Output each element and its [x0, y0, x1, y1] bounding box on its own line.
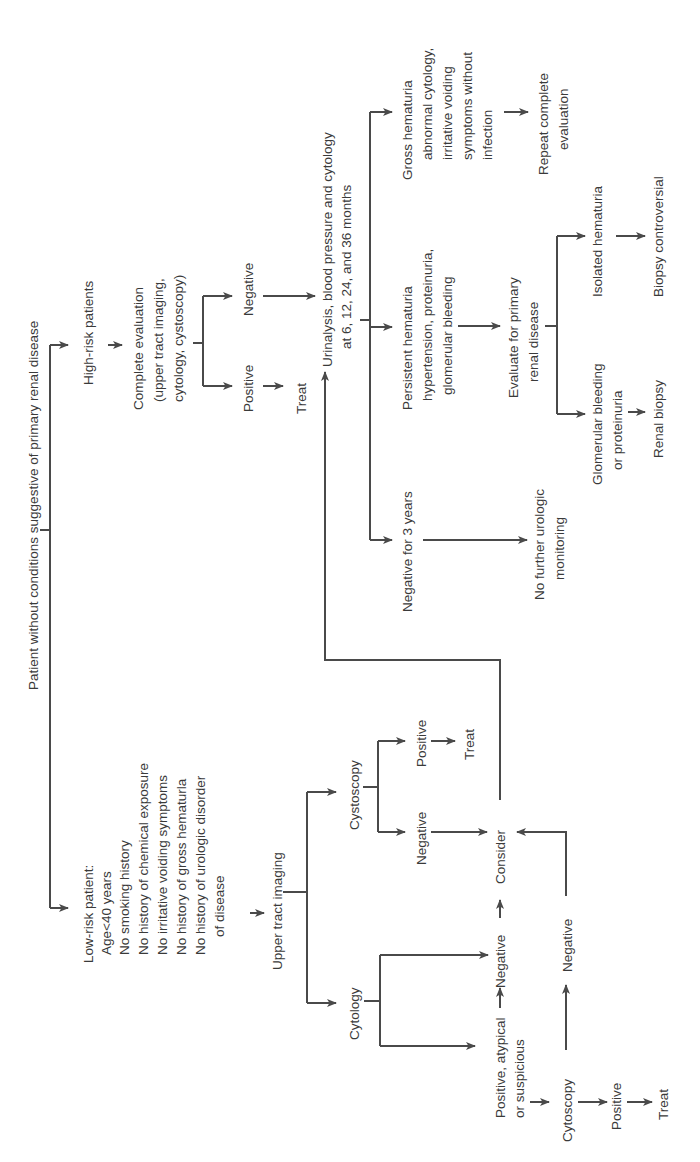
complete-eval-line1: Complete evaluation	[131, 287, 146, 410]
low-risk-line8: of disease	[212, 875, 227, 937]
evaluate-line2: renal disease	[526, 302, 541, 382]
complete-eval-line3: cytology, cystoscopy)	[171, 275, 186, 402]
hr-treat: Treat	[294, 383, 309, 414]
urinalysis-line2: at 6, 12, 24, and 36 months	[339, 184, 354, 349]
high-risk-label: High-risk patients	[81, 280, 96, 385]
cysto-negative: Negative	[414, 812, 429, 865]
persistent-line3: glomerular bleeding	[440, 276, 455, 395]
flowchart-svg: Patient without conditions suggestive of…	[0, 0, 700, 1162]
hr-negative: Negative	[241, 263, 256, 316]
cytoscopy2: Cytoscopy	[560, 1079, 575, 1142]
no-further-line1: No further urologic	[532, 489, 547, 600]
low-risk-line2: Age<40 years	[99, 871, 114, 955]
glomerular-line1: Glomerular bleeding	[590, 363, 605, 485]
gross-line1: Gross hematuria	[400, 80, 415, 180]
cystoscopy: Cystoscopy	[347, 760, 362, 830]
cytoscopy2-treat: Treat	[656, 1089, 671, 1120]
cysto-positive: Positive	[414, 720, 429, 767]
flowchart-figure: Patient without conditions suggestive of…	[0, 0, 700, 1162]
hr-positive: Positive	[241, 365, 256, 412]
low-risk-line7: No history of urologic disorder	[193, 775, 208, 955]
gross-line3: irritative voiding	[440, 66, 455, 160]
renal-biopsy: Renal biopsy	[651, 380, 666, 458]
complete-eval-line2: (upper tract imaging,	[151, 278, 166, 402]
low-risk-line4: No history of chemical exposure	[136, 763, 151, 955]
evaluate-line1: Evaluate for primary	[506, 277, 521, 398]
cytology-positive-line2: or suspicious	[512, 1039, 527, 1118]
gross-line4: symptoms without	[460, 52, 475, 160]
arrow-to-consider-from-cytoscopy	[517, 832, 566, 896]
low-risk-line5: No irritative voiding symptoms	[155, 775, 170, 955]
repeat-line1: Repeat complete	[536, 73, 551, 175]
isolated-hematuria: Isolated hematuria	[590, 185, 605, 297]
gross-line2: abnormal cytology,	[420, 48, 435, 160]
cytoscopy2-positive: Positive	[609, 1083, 624, 1130]
gross-line5: infection	[480, 110, 495, 160]
cytology: Cytology	[347, 987, 362, 1040]
root-label: Patient without conditions suggestive of…	[26, 321, 41, 690]
negative-3y: Negative for 3 years	[400, 491, 415, 612]
cytoscopy2-negative: Negative	[560, 919, 575, 972]
cysto-treat: Treat	[462, 729, 477, 760]
no-further-line2: monitoring	[552, 517, 567, 580]
labels: Patient without conditions suggestive of…	[26, 48, 671, 1142]
cytology-positive-line1: Positive, atypical	[493, 1017, 508, 1118]
urinalysis-line1: Urinalysis, blood pressure and cytology	[320, 132, 335, 367]
persistent-line2: hypertension, proteinuria,	[420, 249, 435, 401]
upper-tract-imaging: Upper tract imaging	[270, 852, 285, 970]
cytology-negative: Negative	[493, 935, 508, 988]
consider: Consider	[493, 829, 508, 884]
persistent-line1: Persistent hematuria	[400, 286, 415, 410]
glomerular-line2: or proteinuria	[610, 390, 625, 470]
low-risk-line6: No history of gross hematurla	[174, 778, 189, 955]
low-risk-line3: No smoking history	[117, 840, 132, 955]
low-risk-line1: Low-risk patient:	[81, 865, 96, 963]
biopsy-controversial: Biopsy controversial	[651, 176, 666, 297]
repeat-line2: evaluation	[556, 88, 571, 150]
